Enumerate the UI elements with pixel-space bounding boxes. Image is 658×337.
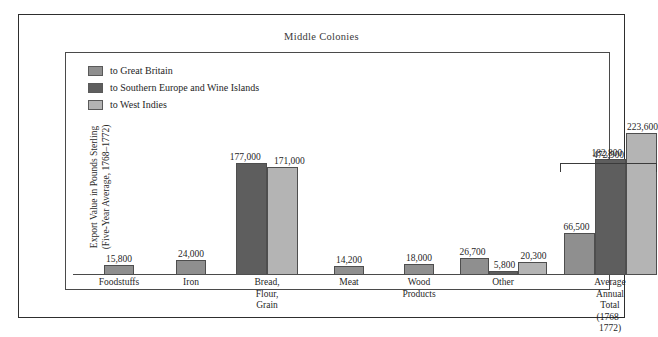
bar-group-meat: 14,200 Meat [318,266,380,275]
bar-other-great-britain [460,258,489,275]
bar-group-bread-flour-grain: 177,000 171,000 Bread, Flour, Grain [228,163,306,275]
bar-iron-great-britain [176,260,206,275]
bar-value-iron-great-britain: 24,000 [178,249,204,259]
plot-frame: Export Value in Pounds Sterling (Five-Ye… [65,52,610,290]
bar-other-southern-europe [489,271,518,275]
bar-value-other-west-indies: 20,300 [520,251,546,261]
bar-group-label-meat: Meat [339,277,359,289]
bar-group-other: 26,700 5,800 20,300 Other [458,258,548,275]
bar-group-iron: 24,000 Iron [160,260,222,275]
bar-other-west-indies [518,262,547,275]
bar-value-bread-southern-europe: 177,000 [230,152,261,162]
bar-value-total-great-britain: 66,500 [563,222,589,232]
bar-group-label-iron: Iron [183,277,199,289]
bar-wrap-other-west-indies: 20,300 [518,262,547,275]
bar-value-total-west-indies: 223,600 [627,122,658,132]
bar-wrap-bread-southern-europe: 177,000 [236,163,267,275]
bar-value-meat-great-britain: 14,200 [336,255,362,265]
bar-group-label-bread-flour-grain: Bread, Flour, Grain [248,277,287,312]
bar-wrap-meat-great-britain: 14,200 [334,266,364,275]
total-bracket-top-rule [560,163,657,164]
bar-wrap-other-great-britain: 26,700 [460,258,489,275]
total-bracket-right-tick [656,163,657,172]
bar-foodstuffs-great-britain [104,265,134,275]
bar-group-wood-products: 18,000 Wood Products [388,264,450,275]
bar-value-other-great-britain: 26,700 [459,247,485,257]
bar-wrap-other-southern-europe: 5,800 [489,271,518,275]
bar-value-foodstuffs-great-britain: 15,800 [106,254,132,264]
bar-group-label-foodstuffs: Foodstuffs [99,277,139,289]
bar-wrap-iron-great-britain: 24,000 [176,260,206,275]
bar-wrap-wood-great-britain: 18,000 [404,264,434,275]
total-bracket-left-tick [560,163,561,172]
bar-value-bread-west-indies: 171,000 [274,156,305,166]
bar-wood-great-britain [404,264,434,275]
bar-bread-southern-europe [236,163,267,275]
bar-wrap-foodstuffs-great-britain: 15,800 [104,265,134,275]
bar-group-label-average-annual-total: Average Annual Total (1768–1772) [586,277,634,335]
bar-group-label-other: Other [492,277,514,289]
bar-bread-west-indies [267,167,298,275]
bar-value-other-southern-europe: 5,800 [494,260,515,270]
bar-wrap-bread-west-indies: 171,000 [267,167,298,275]
bar-value-wood-great-britain: 18,000 [406,253,432,263]
bar-total-great-britain [564,233,595,275]
bar-meat-great-britain [334,266,364,275]
total-bracket [560,163,657,177]
plot-area: 15,800 Foodstuffs 24,000 Iron 177,000 [66,53,609,289]
bar-group-label-wood-products: Wood Products [402,277,435,300]
total-bracket-value: 472,900 [560,150,657,160]
bar-wrap-total-great-britain: 66,500 [564,233,595,275]
bar-group-foodstuffs: 15,800 Foodstuffs [88,265,150,275]
